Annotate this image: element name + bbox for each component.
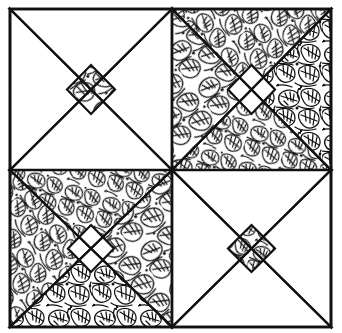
quilt-illustration — [0, 0, 342, 333]
quilt-block-top-right — [172, 9, 331, 170]
quilt-block-bottom-right — [172, 170, 331, 327]
quilt-block-bottom-left — [10, 170, 172, 327]
quilt-pattern-canvas: Four-Patch Quilt Block Pattern Black and… — [0, 0, 342, 333]
quilt-block-top-left — [10, 9, 172, 170]
